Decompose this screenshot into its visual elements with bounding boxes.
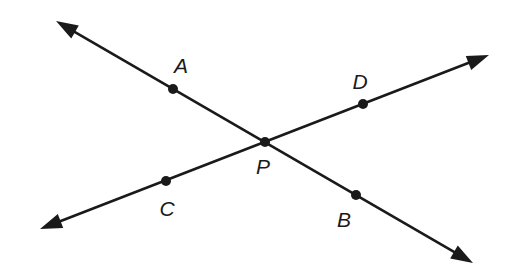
point-label-c: C [159, 198, 174, 219]
point-dot-b [351, 190, 361, 200]
arrowhead-icon [40, 214, 63, 229]
arrowhead-icon [466, 55, 489, 70]
point-dot-p [260, 137, 270, 147]
point-label-b: B [337, 209, 351, 230]
intersecting-lines-figure [0, 0, 507, 274]
point-dot-c [161, 176, 171, 186]
point-dot-a [168, 84, 178, 94]
arrowhead-icon [56, 21, 79, 39]
diagram-canvas: A D P C B [0, 0, 507, 274]
point-label-d: D [352, 71, 367, 92]
point-label-a: A [174, 55, 188, 76]
arrowhead-icon [450, 245, 473, 263]
point-dot-d [358, 99, 368, 109]
point-label-p: P [256, 156, 270, 177]
